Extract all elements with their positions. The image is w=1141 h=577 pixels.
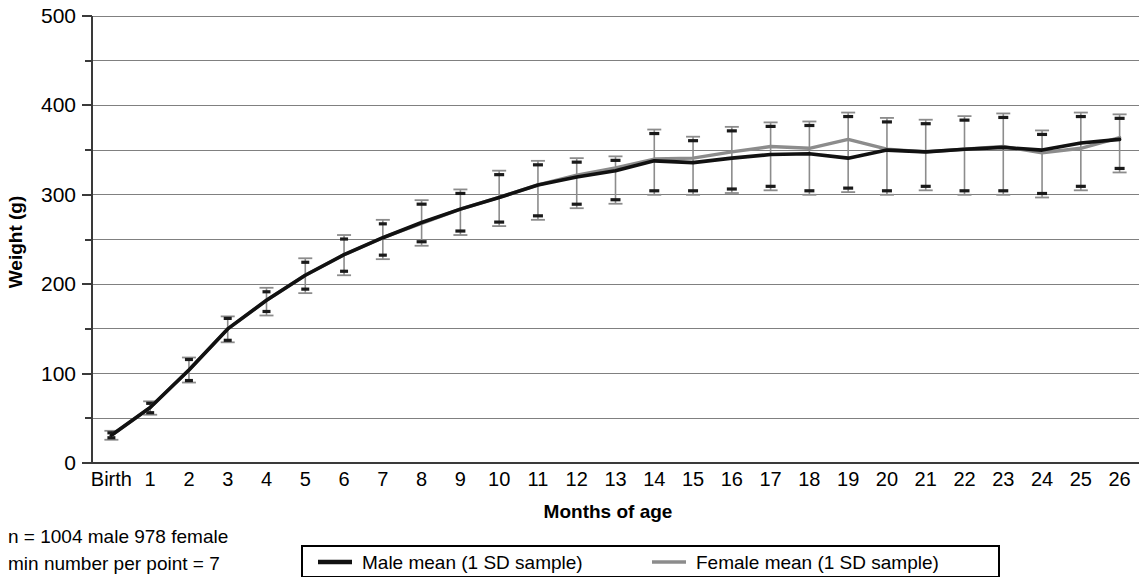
x-tick-label-1: 1 (145, 468, 156, 490)
x-tick-label-birth: Birth (91, 468, 132, 490)
x-tick-label-3: 3 (222, 468, 233, 490)
x-tick-label-12: 12 (566, 468, 588, 490)
error-bar-20 (880, 118, 894, 195)
error-bar-19 (841, 113, 855, 193)
x-tick-label-7: 7 (377, 468, 388, 490)
x-tick-label-14: 14 (643, 468, 665, 490)
x-tick-label-15: 15 (682, 468, 704, 490)
x-tick-label-26: 26 (1108, 468, 1130, 490)
error-bar-21 (919, 120, 933, 191)
y-tick-label-400: 400 (41, 93, 76, 116)
error-bar-13 (609, 156, 623, 203)
error-bars (104, 113, 1126, 440)
y-axis-title: Weight (g) (5, 196, 26, 289)
legend-label-male: Male mean (1 SD sample) (362, 552, 583, 573)
x-tick-label-8: 8 (416, 468, 427, 490)
x-tick-label-4: 4 (261, 468, 272, 490)
x-tick-label-16: 16 (721, 468, 743, 490)
x-tick-label-20: 20 (876, 468, 898, 490)
growth-chart-svg: 5004003002001000 Birth123456789101112131… (0, 0, 1141, 577)
x-tick-label-6: 6 (338, 468, 349, 490)
x-axis-title: Months of age (544, 501, 673, 522)
x-tick-label-18: 18 (798, 468, 820, 490)
x-tick-label-23: 23 (992, 468, 1014, 490)
x-tick-label-19: 19 (837, 468, 859, 490)
gridlines (92, 16, 1139, 418)
x-tick-label-5: 5 (300, 468, 311, 490)
footnote-line-1: n = 1004 male 978 female (8, 526, 228, 547)
chart-legend: Male mean (1 SD sample) Female mean (1 S… (302, 546, 999, 577)
x-tick-label-21: 21 (915, 468, 937, 490)
x-axis-tick-labels: Birth12345678910111213141516171819202122… (91, 468, 1131, 490)
x-tick-label-25: 25 (1070, 468, 1092, 490)
x-tick-label-11: 11 (528, 468, 549, 490)
error-bar-23 (996, 113, 1010, 194)
error-bar-18 (802, 121, 816, 194)
x-tick-label-22: 22 (953, 468, 975, 490)
x-tick-label-9: 9 (455, 468, 466, 490)
chart-figure: 5004003002001000 Birth123456789101112131… (0, 0, 1141, 577)
axis-tickmarks (82, 16, 92, 463)
footnote-line-2: min number per point = 7 (8, 553, 220, 574)
error-bar-11 (531, 161, 545, 220)
x-tick-label-24: 24 (1031, 468, 1053, 490)
x-tick-label-2: 2 (183, 468, 194, 490)
y-tick-label-100: 100 (41, 362, 76, 385)
error-bar-12 (570, 158, 584, 208)
y-tick-label-500: 500 (41, 4, 76, 27)
error-bar-15 (686, 137, 700, 195)
x-tick-label-17: 17 (759, 468, 781, 490)
y-axis-tick-labels: 5004003002001000 (41, 4, 76, 474)
error-bar-24 (1035, 130, 1049, 197)
x-tick-label-13: 13 (604, 468, 626, 490)
legend-label-female: Female mean (1 SD sample) (696, 552, 939, 573)
y-tick-label-0: 0 (64, 451, 76, 474)
error-bar-25 (1074, 113, 1088, 191)
error-bar-22 (958, 116, 972, 195)
y-tick-label-200: 200 (41, 272, 76, 295)
error-bar-26 (1113, 114, 1127, 172)
x-tick-label-10: 10 (488, 468, 510, 490)
y-tick-label-300: 300 (41, 183, 76, 206)
